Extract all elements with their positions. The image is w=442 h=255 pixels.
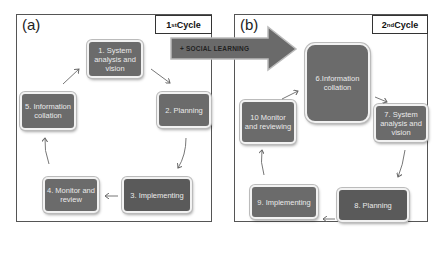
arrows-layer (0, 0, 442, 255)
cycle-a-arrows (45, 69, 186, 196)
cycle-b-arrows (261, 91, 405, 219)
social-learning-label: + SOCIAL LEARNING (180, 45, 249, 52)
